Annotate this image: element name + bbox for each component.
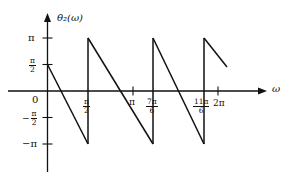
fraction-11pi-6: 11π 6: [193, 98, 209, 115]
y-tick-label-neg-pi: −π: [22, 139, 37, 149]
fraction-denominator: 2: [31, 119, 38, 127]
y-axis-arrowhead: [44, 13, 51, 22]
x-tick-label-11pi-6: 11π 6: [193, 98, 209, 115]
x-tick-label-pi: π: [129, 98, 135, 107]
fraction-denominator: 2: [29, 66, 36, 74]
fraction-denominator: 6: [146, 107, 158, 115]
x-tick-label-7pi-6: 7π 6: [146, 98, 158, 115]
y-axis-label: θ₂(ω): [57, 13, 83, 23]
phase-plot-figure: θ₂(ω) ω π π 2 0 − π 2 −π π 2 π 7π 6: [0, 0, 292, 178]
fraction-half-pi: π 2: [29, 57, 36, 74]
fraction-7pi-6: 7π 6: [146, 98, 158, 115]
y-tick-label-half-pi: π 2: [29, 57, 36, 74]
signed-fraction-neg-half-pi: − π 2: [22, 110, 37, 127]
minus-sign: −: [22, 114, 30, 123]
fraction-denominator: 6: [193, 107, 209, 115]
fraction-half-pi-x: π 2: [83, 98, 90, 115]
y-tick-label-zero: 0: [32, 95, 38, 105]
x-axis-label: ω: [272, 84, 280, 94]
plot-canvas: [0, 0, 292, 178]
axes-group: [8, 13, 267, 172]
y-tick-label-neg-half-pi: − π 2: [22, 110, 37, 127]
x-tick-label-2pi: 2π: [213, 99, 225, 108]
fraction-half-pi-neg: π 2: [31, 110, 38, 127]
curve-branch-1: [48, 65, 89, 145]
fraction-denominator: 2: [83, 107, 90, 115]
curve-branch-4: [204, 38, 227, 67]
y-tick-label-pi: π: [28, 33, 35, 43]
x-axis-arrowhead: [258, 87, 267, 94]
x-tick-label-half-pi: π 2: [83, 98, 90, 115]
